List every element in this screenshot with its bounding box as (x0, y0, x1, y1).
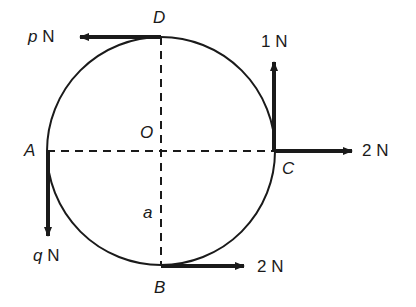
point-label-D: D (153, 9, 165, 26)
force-label-2N-B: 2 N (257, 258, 283, 275)
point-label-A: A (24, 142, 35, 159)
force-label-2N-C: 2 N (362, 142, 388, 159)
force-label-1N: 1 N (261, 33, 287, 50)
force-label-p: p N (28, 28, 54, 45)
force-diagram (0, 0, 416, 307)
center-label-O: O (140, 124, 153, 141)
point-label-C: C (282, 160, 294, 177)
radius-label-a: a (143, 204, 152, 221)
force-label-q: q N (33, 247, 59, 264)
point-label-B: B (154, 279, 165, 296)
